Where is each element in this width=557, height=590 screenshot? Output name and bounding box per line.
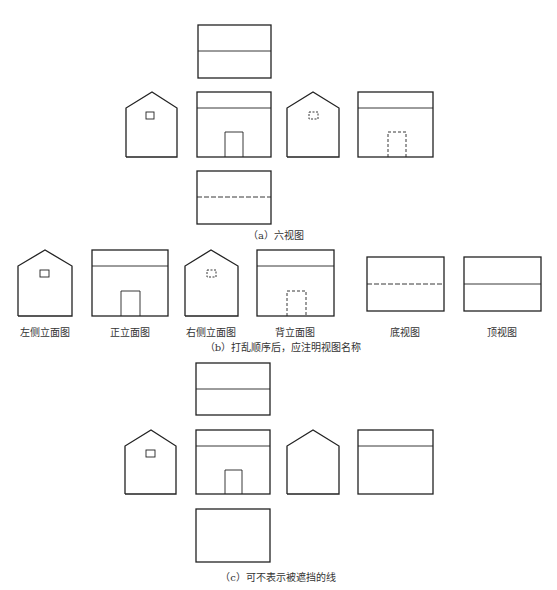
label-front-elevation: 正立面图 xyxy=(110,324,150,339)
label-back-elevation: 背立面图 xyxy=(275,324,315,339)
b-left-elevation xyxy=(18,250,72,316)
b-back-elevation xyxy=(257,250,334,316)
c-bottom-view xyxy=(196,509,270,562)
caption-c: （c）可不表示被遮挡的线 xyxy=(220,569,336,584)
caption-b: （b）打乱顺序后，应注明视图名称 xyxy=(205,339,361,354)
a-left-elevation xyxy=(126,92,177,157)
a-top-view xyxy=(198,25,271,78)
b-front-elevation xyxy=(92,250,168,316)
a-right-elevation xyxy=(287,92,339,157)
c-right-elevation xyxy=(287,430,339,494)
caption-a: （a）六视图 xyxy=(248,227,304,242)
a-bottom-view xyxy=(197,171,271,224)
b-top-view xyxy=(464,257,541,311)
c-left-elevation xyxy=(125,430,176,494)
label-top-view: 顶视图 xyxy=(487,324,517,339)
c-back-elevation xyxy=(358,430,433,494)
a-front-elevation xyxy=(197,92,271,157)
b-bottom-view xyxy=(367,257,444,311)
c-top-view xyxy=(196,363,270,415)
label-bottom-view: 底视图 xyxy=(390,324,420,339)
label-right-elevation: 右侧立面图 xyxy=(186,324,236,339)
b-right-elevation xyxy=(185,250,238,316)
a-back-elevation xyxy=(358,92,433,157)
drawing-canvas xyxy=(0,0,557,590)
c-front-elevation xyxy=(196,430,270,494)
label-left-elevation: 左侧立面图 xyxy=(20,324,70,339)
